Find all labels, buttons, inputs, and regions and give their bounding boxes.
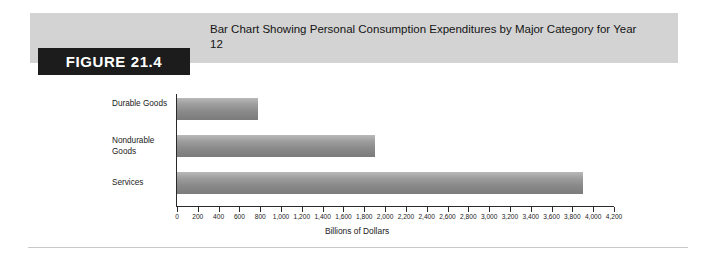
bar — [177, 172, 583, 194]
x-axis-tick-label: 2,800 — [460, 213, 477, 220]
x-axis-tick — [468, 207, 469, 212]
x-axis-tick — [552, 207, 553, 212]
plot-area: Durable GoodsNondurable GoodsServices 02… — [0, 0, 714, 260]
x-axis-tick — [448, 207, 449, 212]
x-axis-tick — [323, 207, 324, 212]
category-label: Durable Goods — [112, 99, 174, 110]
bottom-divider — [28, 247, 688, 248]
x-axis-tick — [343, 207, 344, 212]
x-axis-tick — [260, 207, 261, 212]
x-axis-tick — [281, 207, 282, 212]
x-axis-tick — [219, 207, 220, 212]
x-axis-tick-label: 1,600 — [335, 213, 352, 220]
x-axis-tick-label: 1,200 — [294, 213, 311, 220]
x-axis-tick-label: 600 — [234, 213, 245, 220]
x-axis-tick-label: 2,200 — [398, 213, 415, 220]
x-axis-tick — [593, 207, 594, 212]
x-axis-tick-label: 800 — [255, 213, 266, 220]
x-axis-tick — [406, 207, 407, 212]
x-axis-tick — [364, 207, 365, 212]
x-axis-tick-label: 200 — [192, 213, 203, 220]
x-axis-tick — [489, 207, 490, 212]
figure-container: FIGURE 21.4 Bar Chart Showing Personal C… — [0, 0, 714, 260]
x-axis-tick — [510, 207, 511, 212]
x-axis-tick-label: 4,200 — [606, 213, 623, 220]
x-axis-tick-label: 2,000 — [377, 213, 394, 220]
x-axis-tick-label: 2,400 — [418, 213, 435, 220]
x-axis-tick-label: 3,000 — [481, 213, 498, 220]
x-axis-tick-label: 3,400 — [522, 213, 539, 220]
x-axis-tick — [385, 207, 386, 212]
x-axis-tick — [177, 207, 178, 212]
bar — [177, 135, 375, 157]
x-axis-tick — [239, 207, 240, 212]
x-axis-tick-label: 1,400 — [314, 213, 331, 220]
x-axis-tick — [302, 207, 303, 212]
x-axis-tick-label: 4,000 — [585, 213, 602, 220]
x-axis-tick-label: 1,000 — [273, 213, 290, 220]
x-axis-tick-label: 3,600 — [543, 213, 560, 220]
x-axis-tick-label: 3,200 — [502, 213, 519, 220]
x-axis-tick-label: 400 — [213, 213, 224, 220]
x-axis-tick — [614, 207, 615, 212]
x-axis-line — [176, 206, 614, 207]
x-axis-tick-label: 0 — [175, 213, 179, 220]
x-axis-tick-label: 2,600 — [439, 213, 456, 220]
x-axis-title: Billions of Dollars — [0, 226, 714, 236]
bar — [177, 98, 258, 120]
x-axis-tick — [427, 207, 428, 212]
x-axis-tick — [531, 207, 532, 212]
category-label: Services — [112, 178, 174, 189]
x-axis-tick — [572, 207, 573, 212]
x-axis-tick-label: 1,800 — [356, 213, 373, 220]
x-axis-tick — [198, 207, 199, 212]
category-label: Nondurable Goods — [112, 136, 174, 157]
x-axis-tick-label: 3,800 — [564, 213, 581, 220]
